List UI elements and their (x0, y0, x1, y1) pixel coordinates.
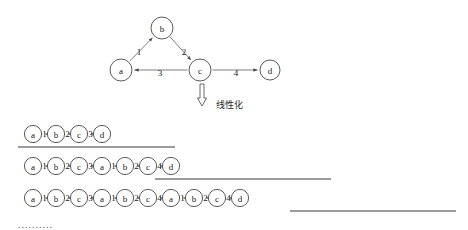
seq-weight-1: 1 (180, 193, 185, 203)
sequence-row-1: a1b2c3d (24, 125, 110, 142)
seq-weight-2: 2 (134, 161, 139, 171)
continuation-ellipsis: .......... (18, 219, 53, 230)
seq-weight-1: 1 (42, 161, 47, 171)
seq-weight-2: 2 (65, 129, 70, 139)
graph-node-b: b (151, 17, 173, 39)
seq-node-b: b (47, 189, 64, 206)
graph-edge-b-to-c (170, 37, 191, 60)
graph-node-a: a (110, 59, 132, 81)
seq-node-b: b (116, 189, 133, 206)
seq-node-a: a (24, 189, 41, 206)
directed-graph: 1234bacd (110, 17, 280, 81)
seq-node-label-b: b (123, 162, 128, 172)
seq-node-label-d: d (238, 194, 243, 204)
graph-edge-label-4-cd: 4 (234, 68, 239, 78)
seq-weight-2: 2 (203, 193, 208, 203)
seq-node-label-a: a (100, 162, 104, 172)
graph-node-label-a: a (119, 66, 123, 76)
linearized-sequences: a1b2c3da1b2c3a1b2c4da1b2c3a1b2c4a1b2c4d (18, 125, 456, 211)
seq-node-label-a: a (31, 162, 35, 172)
seq-weight-4: 4 (157, 161, 162, 171)
linearization-diagram: 1234bacd 线性化 a1b2c3da1b2c3a1b2c4da1b2c3a… (0, 0, 468, 230)
seq-node-label-b: b (54, 194, 59, 204)
seq-weight-4: 4 (226, 193, 231, 203)
seq-node-d: d (231, 189, 248, 206)
seq-weight-3: 3 (88, 129, 93, 139)
seq-node-a: a (93, 157, 110, 174)
seq-node-c: c (70, 125, 87, 142)
seq-node-label-c: c (146, 162, 150, 172)
seq-node-c: c (139, 189, 156, 206)
seq-node-c: c (70, 189, 87, 206)
seq-node-label-a: a (31, 194, 35, 204)
seq-node-b: b (116, 157, 133, 174)
seq-node-b: b (47, 125, 64, 142)
seq-node-a: a (93, 189, 110, 206)
seq-node-label-c: c (77, 194, 81, 204)
seq-weight-1: 1 (42, 193, 47, 203)
seq-node-label-a: a (31, 130, 35, 140)
seq-node-label-a: a (100, 194, 104, 204)
sequence-row-2: a1b2c3a1b2c4d (24, 157, 179, 174)
seq-node-label-b: b (192, 194, 197, 204)
seq-node-label-c: c (215, 194, 219, 204)
linearize-label: 线性化 (216, 99, 243, 110)
seq-weight-2: 2 (65, 161, 70, 171)
seq-node-d: d (93, 125, 110, 142)
seq-weight-3: 3 (88, 161, 93, 171)
graph-node-label-c: c (198, 66, 202, 76)
seq-node-label-b: b (54, 130, 59, 140)
seq-weight-1: 1 (111, 161, 116, 171)
seq-node-label-b: b (54, 162, 59, 172)
seq-node-c: c (208, 189, 225, 206)
graph-node-label-d: d (268, 66, 273, 76)
seq-node-label-a: a (169, 194, 173, 204)
ellipsis-text: .......... (18, 219, 53, 230)
seq-node-label-c: c (146, 194, 150, 204)
seq-node-label-c: c (77, 130, 81, 140)
seq-node-c: c (139, 157, 156, 174)
graph-edge-label-2-bc: 2 (182, 47, 187, 57)
sequence-row-3: a1b2c3a1b2c4a1b2c4d (24, 189, 248, 206)
graph-edge-label-1-ab: 1 (137, 47, 142, 57)
graph-node-label-b: b (160, 24, 165, 34)
seq-node-label-b: b (123, 194, 128, 204)
seq-node-label-d: d (100, 130, 105, 140)
seq-weight-1: 1 (42, 129, 47, 139)
graph-node-c: c (189, 59, 211, 81)
seq-weight-2: 2 (134, 193, 139, 203)
seq-weight-3: 3 (88, 193, 93, 203)
linearization-transform: 线性化 (198, 84, 244, 110)
seq-weight-1: 1 (111, 193, 116, 203)
seq-weight-4: 4 (157, 193, 162, 203)
diagram-canvas: 1234bacd 线性化 a1b2c3da1b2c3a1b2c4da1b2c3a… (0, 0, 468, 230)
seq-node-a: a (24, 125, 41, 142)
seq-node-b: b (185, 189, 202, 206)
linearize-arrow-icon (198, 84, 207, 106)
seq-node-b: b (47, 157, 64, 174)
graph-node-d: d (260, 60, 280, 80)
seq-node-a: a (24, 157, 41, 174)
seq-weight-2: 2 (65, 193, 70, 203)
seq-node-d: d (162, 157, 179, 174)
seq-node-c: c (70, 157, 87, 174)
seq-node-label-c: c (77, 162, 81, 172)
seq-node-label-d: d (169, 162, 174, 172)
graph-edge-label-3-ca: 3 (158, 68, 163, 78)
seq-node-a: a (162, 189, 179, 206)
